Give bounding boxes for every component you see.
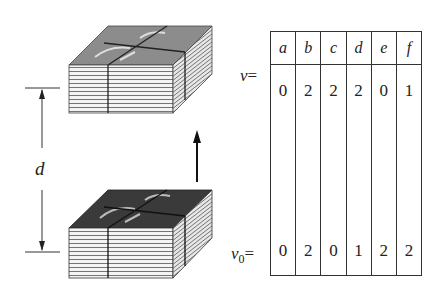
table-column-c: c 20 (320, 32, 345, 275)
value-table: a 00 b 22 c 20 d 21 e 02 f 12 (270, 31, 422, 276)
v-cell: 0 (271, 81, 295, 101)
column-header: f (397, 32, 421, 65)
bottom-paper-stack (69, 190, 212, 278)
v0-symbol: v (231, 244, 239, 263)
v-equals: = (248, 66, 258, 85)
v-symbol: v (240, 66, 248, 85)
v0-equals: = (245, 244, 255, 263)
up-arrow-icon (193, 130, 201, 182)
column-header: b (296, 32, 320, 65)
v-cell: 2 (321, 81, 345, 101)
v0-row-label: v0= (231, 244, 254, 267)
top-paper-stack (69, 26, 212, 113)
v0-cell: 1 (347, 241, 371, 261)
table-column-b: b 22 (295, 32, 320, 275)
v0-cell: 2 (296, 241, 320, 261)
v0-cell: 0 (271, 241, 295, 261)
column-header: e (372, 32, 396, 65)
column-header: c (321, 32, 345, 65)
v0-cell: 0 (321, 241, 345, 261)
v-cell: 1 (397, 81, 421, 101)
v-cell: 2 (296, 81, 320, 101)
v-cell: 2 (347, 81, 371, 101)
table-column-f: f 12 (396, 32, 421, 275)
v0-cell: 2 (397, 241, 421, 261)
v-row-label: v= (240, 66, 257, 86)
table-column-a: a 00 (271, 32, 295, 275)
distance-label: d (35, 158, 45, 180)
table-column-d: d 21 (346, 32, 371, 275)
column-header: d (347, 32, 371, 65)
table-column-e: e 02 (371, 32, 396, 275)
v-cell: 0 (372, 81, 396, 101)
v0-cell: 2 (372, 241, 396, 261)
figure: d v= v0= a 00 b 22 c 20 d 21 e 02 f 12 (0, 0, 432, 290)
column-header: a (271, 32, 295, 65)
